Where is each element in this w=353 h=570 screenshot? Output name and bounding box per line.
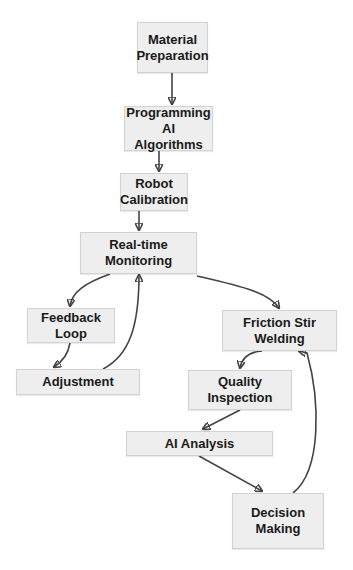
node-realtime-monitoring: Real-time Monitoring	[80, 232, 197, 274]
node-robot-calibration: Robot Calibration	[120, 173, 188, 211]
node-material-preparation: Material Preparation	[137, 22, 208, 73]
edge-feedback-to-adjustment	[54, 343, 70, 367]
edge-decision-to-welding	[293, 351, 316, 493]
edge-monitoring-to-feedback	[70, 274, 110, 306]
edges-layer	[0, 0, 353, 570]
node-decision-making: Decision Making	[232, 493, 324, 549]
node-quality-inspection: Quality Inspection	[188, 370, 292, 410]
edge-welding-to-inspection	[240, 351, 262, 368]
edge-monitoring-to-welding	[197, 276, 279, 308]
node-friction-stir-welding: Friction Stir Welding	[222, 310, 337, 351]
node-adjustment: Adjustment	[16, 369, 140, 395]
node-ai-analysis: AI Analysis	[126, 431, 273, 456]
edge-analysis-to-decision	[199, 456, 262, 491]
edge-inspection-to-analysis	[203, 410, 240, 429]
node-feedback-loop: Feedback Loop	[27, 308, 115, 343]
node-programming-ai-algorithms: Programming AI Algorithms	[124, 106, 213, 151]
